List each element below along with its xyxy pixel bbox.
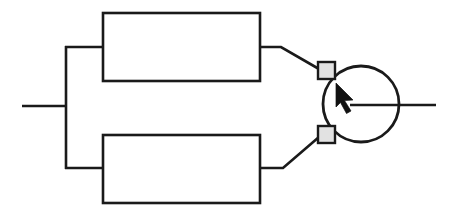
terminal-square-bottom bbox=[318, 126, 335, 143]
block-bottom bbox=[103, 135, 260, 203]
schematic-diagram-canvas bbox=[0, 0, 458, 213]
block-top bbox=[103, 13, 260, 81]
schematic-svg bbox=[0, 0, 458, 213]
terminal-square-top bbox=[318, 62, 335, 79]
